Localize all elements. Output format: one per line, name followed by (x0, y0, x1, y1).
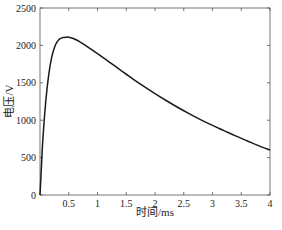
x-tick-label: 3 (210, 198, 215, 209)
y-tick-label: 1000 (16, 115, 36, 126)
y-tick-label: 2500 (16, 3, 36, 14)
y-tick-label: 0 (31, 190, 36, 201)
x-axis-label: 时间/ms (136, 206, 174, 218)
y-axis-label: 电压/V (3, 84, 15, 117)
plot-area (40, 8, 270, 195)
x-tick-label: 1.5 (120, 198, 133, 209)
chart: 05001000150020002500 0.511.522.533.54 时间… (0, 0, 282, 230)
x-tick-label: 0.5 (63, 198, 76, 209)
y-tick-label: 2000 (16, 40, 36, 51)
x-tick-label: 3.5 (235, 198, 248, 209)
x-tick-label: 4 (268, 198, 273, 209)
x-tick-label: 2.5 (178, 198, 191, 209)
y-tick-label: 1500 (16, 77, 36, 88)
y-tick-label: 500 (21, 152, 36, 163)
x-tick-label: 1 (95, 198, 100, 209)
